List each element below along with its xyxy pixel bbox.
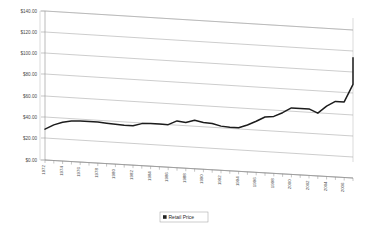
x-tick-label: 1978 xyxy=(94,168,99,178)
x-tick-label: 1992 xyxy=(217,175,222,185)
x-tick-label: 1990 xyxy=(199,174,204,184)
x-tick-label: 2006 xyxy=(340,182,345,192)
x-tick-label: 1980 xyxy=(111,169,116,179)
x-tick-label: 1972 xyxy=(41,164,46,174)
legend-label-retail-price: Retail Price xyxy=(169,214,195,220)
series-retail-price xyxy=(45,58,353,129)
y-tick-label: $140.00 xyxy=(20,9,37,14)
y-tick-label: $20.00 xyxy=(23,136,37,141)
x-tick-label: 1994 xyxy=(235,176,240,186)
x-tick-label: 1998 xyxy=(270,178,275,188)
chart-container: $140.00 $120.00 $100.00 $80.00 $60.00 $4… xyxy=(0,0,368,231)
x-tick-label: 2004 xyxy=(323,181,328,191)
x-tick-label: 1982 xyxy=(129,170,134,180)
y-tick-label: $60.00 xyxy=(23,94,37,99)
x-tick-label: 2000 xyxy=(287,179,292,189)
plot-frame xyxy=(40,11,353,178)
x-tick-label: 1986 xyxy=(164,172,169,182)
y-tick-label: $120.00 xyxy=(20,30,37,35)
x-tick-label: 2002 xyxy=(305,180,310,190)
x-tick-label: 1996 xyxy=(252,177,257,187)
x-tick-label: 1988 xyxy=(182,173,187,183)
y-tick-label: $80.00 xyxy=(23,72,37,77)
retail-price-line-chart: $140.00 $120.00 $100.00 $80.00 $60.00 $4… xyxy=(0,0,368,231)
retail-price-line xyxy=(45,58,353,129)
x-tick-label: 1974 xyxy=(59,165,64,175)
y-axis-labels: $140.00 $120.00 $100.00 $80.00 $60.00 $4… xyxy=(20,9,37,163)
legend-swatch-retail-price xyxy=(163,215,167,219)
chart-legend[interactable]: Retail Price xyxy=(160,212,208,222)
y-tick-label: $0.00 xyxy=(26,158,38,163)
x-tick-label: 1984 xyxy=(147,171,152,181)
y-axis-ticks xyxy=(41,11,45,160)
gridlines xyxy=(45,11,353,178)
y-tick-label: $100.00 xyxy=(20,51,37,56)
x-tick-label: 1976 xyxy=(76,167,81,177)
y-tick-label: $40.00 xyxy=(23,115,37,120)
